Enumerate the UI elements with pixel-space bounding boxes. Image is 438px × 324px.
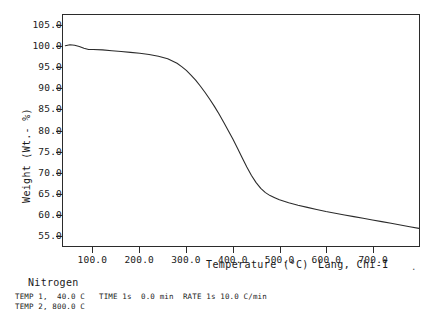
series-line-tga-weight-loss [65,45,419,229]
atmosphere-label: Nitrogen [28,277,79,288]
x-tick-mark [326,247,327,253]
method-parameters-line-1: TEMP 1, 40.0 C TIME 1s 0.0 min RATE 1s 1… [15,292,267,301]
x-tick-mark [139,247,140,253]
data-curve-svg [63,15,419,246]
y-tick-label: 100.0 [16,41,62,51]
x-tick-mark [280,247,281,253]
x-tick-mark [233,247,234,253]
tga-chart-page: 55.060.065.070.075.080.085.090.095.0100.… [0,0,438,324]
y-tick-label: 105.0 [16,20,62,30]
plot-area [62,14,420,247]
x-tick-mark [373,247,374,253]
trailing-mark: . [411,262,416,272]
x-tick-mark [92,247,93,253]
x-axis-title: Temperature (°C) [206,259,309,270]
x-tick-mark [186,247,187,253]
operator-label: Lang, Chi-I [318,259,389,270]
y-axis-title: Weight (Wt.- %) [21,81,32,231]
y-tick-label: 95.0 [16,62,62,72]
method-parameters-line-2: TEMP 2, 800.0 C [15,302,85,311]
y-tick-label: 55.0 [16,231,62,241]
